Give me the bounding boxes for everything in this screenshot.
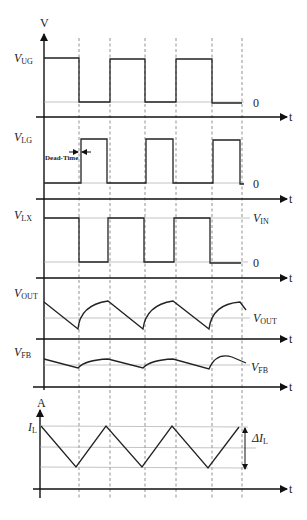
lg-waveform-group: VLG 0 Dead-Time t (14, 130, 293, 206)
ug-waveform (44, 58, 242, 103)
ug-zero-label: 0 (253, 96, 259, 110)
vout-waveform-group: VOUT VOUT t (14, 286, 293, 346)
ug-waveform-group: VUG 0 t (14, 51, 293, 124)
voltage-axis-label: V (40, 16, 49, 30)
vfb-label: VFB (14, 345, 31, 360)
vfb-waveform-group: VFB VFB t (14, 345, 293, 394)
lx-zero-label: 0 (253, 256, 259, 270)
dead-time-label: Dead-Time (45, 154, 78, 162)
delta-il-label: ΔIL (251, 431, 268, 446)
lx-label: VLX (14, 208, 32, 223)
il-label: IL (27, 420, 37, 435)
timing-diagram: V VUG 0 t VLG 0 Dead-Time t VLX VIN 0 t … (0, 0, 307, 520)
current-axis-label: A (37, 396, 46, 410)
time-axis-label: t (289, 192, 293, 206)
il-valley-ref (40, 467, 248, 468)
vout-ref-label: VOUT (253, 311, 277, 326)
time-axis-label: t (289, 332, 293, 346)
vout-label: VOUT (14, 286, 38, 301)
time-axis-label: t (289, 380, 293, 394)
lx-waveform-group: VLX VIN 0 t (14, 208, 293, 285)
vfb-ref-label: VFB (251, 360, 268, 375)
lx-waveform (44, 218, 241, 263)
lg-zero-label: 0 (253, 177, 259, 191)
il-waveform-group: A IL ΔIL t (27, 396, 293, 498)
ug-label: VUG (14, 51, 33, 66)
time-guides (79, 38, 242, 500)
il-peak-ref (40, 426, 248, 427)
time-axis-label: t (289, 482, 293, 496)
lg-label: VLG (14, 130, 32, 145)
time-axis-label: t (289, 110, 293, 124)
time-axis-label: t (289, 271, 293, 285)
lx-vin-label: VIN (253, 211, 269, 226)
